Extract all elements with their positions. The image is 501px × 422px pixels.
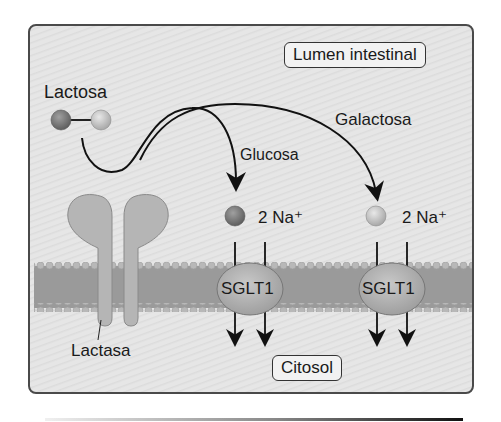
glucose-label: Glucosa [240,146,299,164]
sodium-label-1: 2 Na⁺ [258,207,303,228]
sodium-label-2: 2 Na⁺ [402,207,447,228]
sglt1-label-1: SGLT1 [221,279,274,299]
lactose-label: Lactosa [44,82,107,103]
hydrolysis-arrows [82,104,376,192]
galactose-label: Galactosa [335,110,412,130]
cytosol-label: Citosol [272,355,342,381]
galactose-molecule [366,206,386,226]
lactase-label: Lactasa [71,341,131,361]
sglt1-label-2: SGLT1 [362,279,415,299]
lumen-label: Lumen intestinal [284,42,426,68]
glucose-molecule [225,206,245,226]
bottom-divider [45,418,463,421]
lactose-molecule [51,110,111,130]
